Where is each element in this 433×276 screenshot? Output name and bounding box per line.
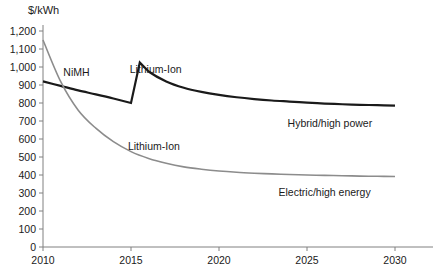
series-annotation-label: Hybrid/high power (288, 117, 373, 129)
series-annotation-label: Lithium-Ion (130, 63, 182, 75)
series-annotation-label: NiMH (63, 66, 89, 78)
battery-cost-chart: $/kWh 01002003004005006007008009001,0001… (0, 0, 433, 276)
plot-area (0, 0, 433, 276)
series-annotation-label: Electric/high energy (278, 186, 370, 198)
series-line-hybrid-high-power (43, 63, 395, 106)
series-annotation-label: Lithium-Ion (128, 140, 180, 152)
series-line-electric-high-energy (43, 40, 395, 176)
